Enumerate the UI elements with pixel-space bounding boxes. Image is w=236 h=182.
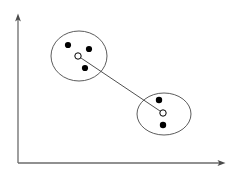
cluster-centroid [160, 110, 166, 116]
data-point [160, 122, 166, 128]
figure-background [0, 0, 236, 182]
cluster-diagram-figure [0, 0, 236, 182]
data-point [156, 97, 162, 103]
data-point [86, 46, 92, 52]
cluster-centroid [75, 53, 81, 59]
data-point [65, 42, 71, 48]
figure-canvas [0, 0, 236, 182]
data-point [82, 65, 88, 71]
